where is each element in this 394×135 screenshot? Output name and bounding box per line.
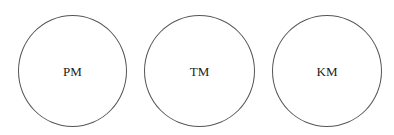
circle-node-pm: PM [18,15,127,127]
circle-node-km: KM [272,15,382,127]
node-label-km: KM [317,65,338,78]
node-label-tm: TM [190,65,210,78]
circle-node-tm: TM [144,15,255,127]
node-label-pm: PM [63,65,82,78]
